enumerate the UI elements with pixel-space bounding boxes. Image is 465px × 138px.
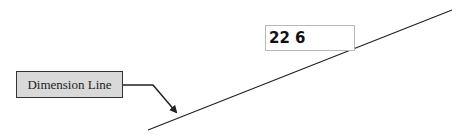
drawing-canvas[interactable] (0, 0, 465, 138)
callout-leader-arrow (123, 85, 176, 112)
dimension-value-input[interactable]: 22 6 (265, 25, 355, 51)
dimension-line-callout: Dimension Line (16, 71, 123, 98)
